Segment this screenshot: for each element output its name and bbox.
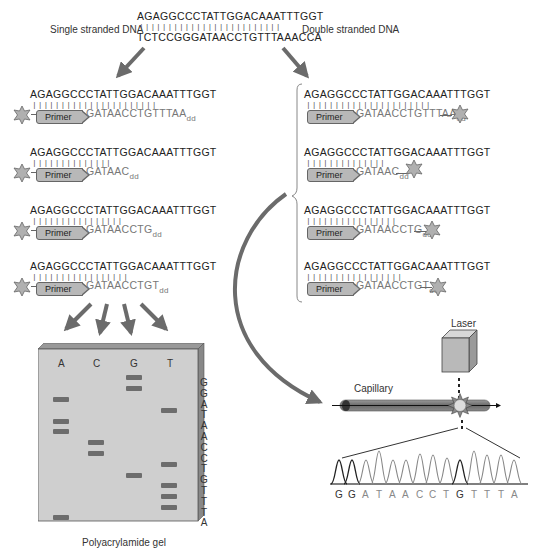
- lane-label-t: T: [167, 358, 173, 369]
- laser-box-icon: [440, 328, 480, 378]
- star-label-icon: [12, 105, 32, 125]
- chromatogram-bases: G G A T A A C C T G T T T A: [330, 489, 530, 503]
- star-label-icon: [450, 104, 470, 124]
- right-row-4-template: AGAGGCCCTATTGGACAAATTTGGT: [304, 260, 491, 272]
- lane-label-a: A: [58, 358, 65, 369]
- arrow-to-single-stranded: [118, 48, 144, 76]
- left-row-4-template: AGAGGCCCTATTGGACAAATTTGGT: [30, 260, 217, 272]
- primer-icon: Primer: [307, 110, 354, 124]
- gel-band-a: [53, 429, 69, 434]
- gel-band-g: [126, 473, 142, 478]
- left-row-3-template: AGAGGCCCTATTGGACAAATTTGGT: [30, 204, 217, 216]
- left-row-2-extension: GATAACdd: [86, 165, 139, 177]
- star-label-icon: [422, 220, 442, 240]
- polyacrylamide-gel: A C G T: [38, 349, 196, 527]
- gel-band-t: [161, 494, 177, 499]
- lane-label-c: C: [93, 358, 100, 369]
- right-row-4-extension: GATAACCTGTdd: [356, 279, 439, 291]
- primer-icon: Primer: [36, 226, 83, 240]
- capillary-tube: [330, 390, 510, 430]
- star-label-icon: [12, 221, 32, 241]
- left-row-2-template: AGAGGCCCTATTGGACAAATTTGGT: [30, 146, 217, 158]
- gel-band-t: [161, 408, 177, 413]
- star-label-icon: [12, 163, 32, 183]
- left-row-4-extension: GATAACCTGTdd: [86, 279, 169, 291]
- gel-band-a: [53, 397, 69, 402]
- left-row-3-extension: GATAACCTGdd: [86, 223, 162, 235]
- arrow-to-double-stranded: [283, 48, 307, 76]
- primer-icon: Primer: [36, 168, 83, 182]
- gel-band-g: [126, 375, 142, 380]
- gel-band-t: [161, 505, 177, 510]
- right-row-1-template: AGAGGCCCTATTGGACAAATTTGGT: [304, 88, 491, 100]
- right-row-2-template: AGAGGCCCTATTGGACAAATTTGGT: [304, 146, 491, 158]
- gel-band-t: [161, 483, 177, 488]
- primer-icon: Primer: [307, 226, 354, 240]
- gel-band-c: [88, 440, 104, 445]
- primer-icon: Primer: [36, 282, 83, 296]
- right-row-3-extension: GATAACCTGdd: [356, 223, 432, 235]
- gel-band-a: [53, 515, 69, 520]
- right-row-3-template: AGAGGCCCTATTGGACAAATTTGGT: [304, 204, 491, 216]
- primer-icon: Primer: [307, 282, 354, 296]
- primer-icon: Primer: [36, 110, 83, 124]
- primer-icon: Primer: [307, 168, 354, 182]
- gel-caption: Polyacrylamide gel: [82, 537, 166, 548]
- gel-band-g: [126, 386, 142, 391]
- lane-label-g: G: [130, 358, 138, 369]
- detection-burst-icon: [448, 394, 472, 418]
- gel-band-a: [53, 419, 69, 424]
- gel-band-c: [88, 451, 104, 456]
- star-label-icon: [12, 277, 32, 297]
- right-row-2-extension: GATAACdd: [356, 165, 409, 177]
- left-row-1-template: AGAGGCCCTATTGGACAAATTTGGT: [30, 88, 217, 100]
- gel-band-t: [161, 462, 177, 467]
- star-label-icon: [404, 159, 424, 179]
- left-row-1-extension: GATAACCTGTTTAAdd: [86, 107, 196, 119]
- star-label-icon: [428, 277, 448, 297]
